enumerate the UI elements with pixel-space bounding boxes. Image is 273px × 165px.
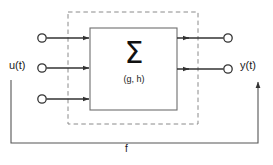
output-signal-label: y(t) [240,60,256,71]
input-port-1 [38,34,46,42]
input-port-2 [38,64,46,72]
output-port-2 [224,65,232,73]
feedback-label: f [125,144,128,154]
block-parameters-label: (g, h) [112,75,156,84]
summation-symbol: Σ [120,38,148,68]
input-signal-label: u(t) [9,60,26,71]
block-diagram: u(t) y(t) f Σ (g, h) [0,0,273,165]
input-port-3 [38,95,46,103]
output-port-1 [224,34,232,42]
